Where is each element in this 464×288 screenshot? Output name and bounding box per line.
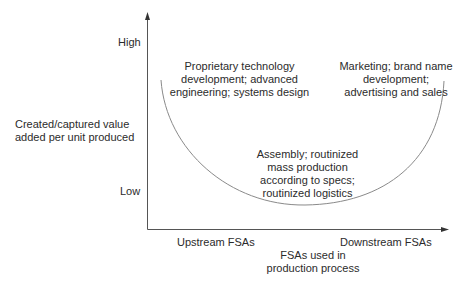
y-axis-low-label: Low — [120, 185, 140, 198]
upstream-region-label: Proprietary technology development; adva… — [167, 60, 312, 99]
y-axis-high-label: High — [118, 36, 141, 49]
x-axis-left-label: Upstream FSAs — [177, 236, 255, 249]
x-axis-title: FSAs used in production process — [257, 249, 369, 275]
midstream-region-label: Assembly; routinized mass production acc… — [250, 148, 365, 200]
y-axis-title: Created/captured value added per unit pr… — [15, 118, 134, 144]
x-axis-arrow-icon — [441, 227, 449, 232]
downstream-region-label: Marketing; brand name development; adver… — [333, 60, 459, 99]
x-axis-right-label: Downstream FSAs — [340, 236, 432, 249]
y-axis-arrow-icon — [145, 12, 150, 20]
